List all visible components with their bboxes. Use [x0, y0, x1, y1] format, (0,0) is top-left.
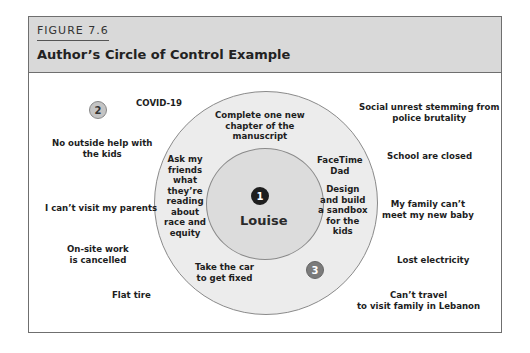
badge-3-icon: 3 [306, 261, 324, 279]
influence-item: Take the car to get fixed [195, 262, 254, 283]
influence-item: Design and build a sandbox for the kids [318, 184, 368, 237]
influence-item: Complete one new chapter of the manuscri… [215, 110, 305, 142]
influence-item: FaceTime Dad [317, 155, 363, 176]
influence-item: Ask my friends what they’re reading abou… [164, 154, 206, 238]
outside-item: My family can’t meet my new baby [382, 199, 474, 220]
figure-header: FIGURE 7.6 Author’s Circle of Control Ex… [29, 17, 501, 73]
outside-item: Flat tire [112, 290, 151, 301]
center-name: Louise [240, 213, 287, 228]
circle-of-control [206, 148, 324, 260]
figure-label: FIGURE 7.6 [37, 24, 109, 41]
badge-1-icon: 1 [251, 187, 269, 205]
figure-title: Author’s Circle of Control Example [37, 47, 290, 62]
outside-item: Lost electricity [397, 255, 469, 266]
outside-item: No outside help with the kids [52, 138, 152, 159]
outside-item: COVID-19 [136, 98, 182, 109]
outside-item: Social unrest stemming from police bruta… [359, 102, 499, 123]
outside-item: On-site work is cancelled [67, 244, 129, 265]
outside-item: I can’t visit my parents [45, 203, 157, 214]
badge-2-icon: 2 [89, 101, 107, 119]
outside-item: School are closed [387, 151, 472, 162]
outside-item: Can’t travel to visit family in Lebanon [357, 290, 480, 311]
